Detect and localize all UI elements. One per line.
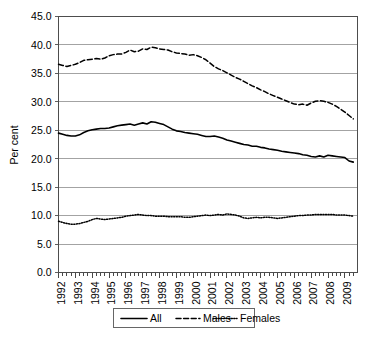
x-tick-label: 2008 — [324, 281, 336, 305]
y-tick-label: 20.0 — [31, 153, 52, 165]
x-tick-label: 2000 — [190, 281, 202, 305]
x-tick-label: 1994 — [89, 281, 101, 305]
y-tick-label: 30.0 — [31, 96, 52, 108]
line-chart: Per cent 45.040.035.030.025.020.015.010.… — [0, 0, 367, 337]
x-tick-label: 1997 — [139, 281, 151, 305]
x-tick-label: 1999 — [173, 281, 185, 305]
y-tick-label: 10.0 — [31, 209, 52, 221]
x-tick-label: 2006 — [291, 281, 303, 305]
y-tick-label: 5.0 — [37, 238, 52, 250]
x-tick-label: 2005 — [274, 281, 286, 305]
x-tick-label: 2007 — [307, 281, 319, 305]
y-tick-label: 40.0 — [31, 39, 52, 51]
legend-label-females[interactable]: Females — [240, 312, 280, 324]
y-tick-label: 15.0 — [31, 181, 52, 193]
legend-label-all[interactable]: All — [150, 312, 162, 324]
x-tick-label: 2004 — [257, 281, 269, 305]
x-tick-label: 1993 — [72, 281, 84, 305]
y-tick-label: 35.0 — [31, 67, 52, 79]
y-axis-title-text: Per cent — [8, 125, 20, 164]
x-tick-label: 1996 — [122, 281, 134, 305]
chart-container: Per cent 45.040.035.030.025.020.015.010.… — [0, 0, 367, 337]
y-tick-label: 25.0 — [31, 124, 52, 136]
x-tick-label: 1992 — [55, 281, 67, 305]
x-tick-label: 1995 — [105, 281, 117, 305]
y-tick-label: 45.0 — [31, 10, 52, 22]
y-tick-label: 0.0 — [37, 266, 52, 278]
y-axis-title: Per cent — [8, 125, 20, 164]
x-tick-label: 2003 — [240, 281, 252, 305]
x-tick-label: 2009 — [341, 281, 353, 305]
x-tick-label: 2001 — [206, 281, 218, 305]
x-tick-label: 1998 — [156, 281, 168, 305]
x-tick-label: 2002 — [223, 281, 235, 305]
